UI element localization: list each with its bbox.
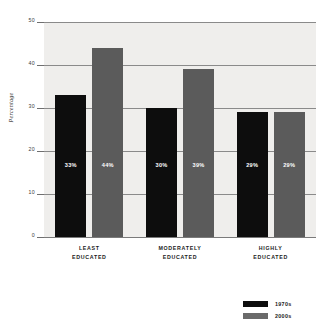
category-label-line: LEAST — [44, 244, 135, 253]
bar — [274, 112, 305, 237]
legend-item[interactable]: 2000s — [243, 311, 327, 320]
y-axis-tick-mark — [37, 65, 44, 66]
y-axis-tick-mark — [37, 151, 44, 152]
y-axis-tick-label: 40 — [29, 60, 35, 66]
legend-swatch — [243, 301, 268, 307]
bar — [92, 48, 123, 237]
y-axis-tick-mark — [37, 108, 44, 109]
bar-value-label: 29% — [274, 162, 305, 168]
bar-value-label: 30% — [146, 162, 177, 168]
gridline — [44, 237, 316, 238]
category-label-line: MODERATELY — [135, 244, 226, 253]
x-axis-category-label: MODERATELYEDUCATED — [135, 244, 226, 261]
legend-swatch — [243, 313, 268, 319]
category-label-line: EDUCATED — [225, 253, 316, 262]
y-axis-tick-mark — [37, 194, 44, 195]
y-axis-tick-mark — [37, 237, 44, 238]
x-axis-categories: LEASTEDUCATEDMODERATELYEDUCATEDHIGHLYEDU… — [44, 244, 316, 270]
x-axis-category-label: HIGHLYEDUCATED — [225, 244, 316, 261]
bar-chart: Percentage 01020304050 33%44%30%39%29%29… — [0, 0, 332, 330]
legend: 1970s2000s — [243, 299, 327, 323]
bar-value-label: 29% — [237, 162, 268, 168]
bar — [237, 112, 268, 237]
y-axis-tick-label: 50 — [29, 17, 35, 23]
y-axis: 01020304050 — [0, 22, 44, 237]
legend-label: 2000s — [275, 313, 292, 319]
y-axis-tick-label: 10 — [29, 189, 35, 195]
category-label-line: HIGHLY — [225, 244, 316, 253]
bars-layer: 33%44%30%39%29%29% — [44, 22, 316, 237]
y-axis-tick-label: 20 — [29, 146, 35, 152]
bar-value-label: 33% — [55, 162, 86, 168]
legend-label: 1970s — [275, 301, 292, 307]
category-label-line: EDUCATED — [135, 253, 226, 262]
y-axis-tick-mark — [37, 22, 44, 23]
bar — [146, 108, 177, 237]
y-axis-tick-label: 30 — [29, 103, 35, 109]
y-axis-tick-label: 0 — [32, 232, 35, 238]
plot-area: 33%44%30%39%29%29% — [44, 22, 316, 237]
bar — [183, 69, 214, 237]
category-label-line: EDUCATED — [44, 253, 135, 262]
x-axis-category-label: LEASTEDUCATED — [44, 244, 135, 261]
legend-item[interactable]: 1970s — [243, 299, 327, 308]
bar-value-label: 39% — [183, 162, 214, 168]
bar-value-label: 44% — [92, 162, 123, 168]
